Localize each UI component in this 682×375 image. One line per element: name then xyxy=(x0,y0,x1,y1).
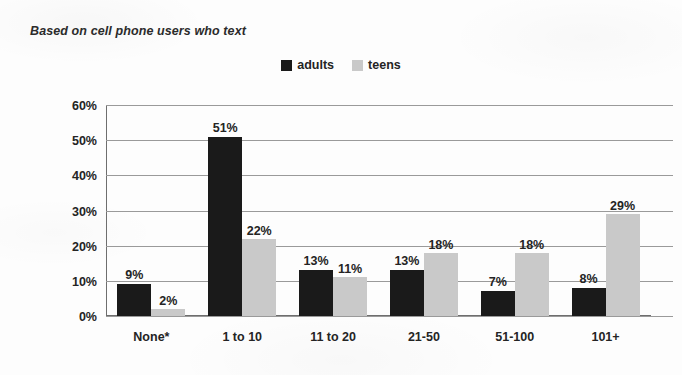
legend-swatch-adults-icon xyxy=(281,60,292,71)
y-axis-tick-label: 60% xyxy=(72,99,97,113)
bar-adults[interactable]: 9% xyxy=(117,284,151,316)
bar-adults[interactable]: 51% xyxy=(208,137,242,316)
x-axis-tick-label: 21-50 xyxy=(378,330,469,344)
bar-adults[interactable]: 8% xyxy=(572,288,606,316)
bars: 8%29% xyxy=(560,105,651,316)
chart-subtitle: Based on cell phone users who text xyxy=(30,24,246,38)
bar-value-label: 8% xyxy=(580,272,598,286)
bar-teens[interactable]: 18% xyxy=(515,253,549,316)
x-axis-tick-label: None* xyxy=(106,330,197,344)
bar-teens[interactable]: 18% xyxy=(424,253,458,316)
bars: 13%18% xyxy=(378,105,469,316)
y-axis-tick-label: 10% xyxy=(72,275,97,289)
bars: 7%18% xyxy=(469,105,560,316)
bar-adults[interactable]: 13% xyxy=(390,270,424,316)
bar-value-label: 13% xyxy=(394,254,419,268)
bars: 13%11% xyxy=(288,105,379,316)
bar-teens[interactable]: 2% xyxy=(151,309,185,316)
bar-group-none: 9%2%None* xyxy=(106,105,197,316)
bar-value-label: 18% xyxy=(428,238,453,252)
bar-adults[interactable]: 7% xyxy=(481,291,515,316)
bar-teens[interactable]: 29% xyxy=(606,214,640,316)
bar-value-label: 2% xyxy=(159,294,177,308)
bar-group-11-to-20: 13%11%11 to 20 xyxy=(288,105,379,316)
bar-value-label: 29% xyxy=(610,199,635,213)
plot-area: 0%10%20%30%40%50%60% 9%2%None*51%22%1 to… xyxy=(106,105,651,316)
y-axis-tick-label: 20% xyxy=(72,240,97,254)
bar-value-label: 7% xyxy=(489,275,507,289)
bar-group-51-100: 7%18%51-100 xyxy=(469,105,560,316)
bar-adults[interactable]: 13% xyxy=(299,270,333,316)
bar-groups: 9%2%None*51%22%1 to 1013%11%11 to 2013%1… xyxy=(106,105,651,316)
legend-item-adults[interactable]: adults xyxy=(281,58,334,72)
x-axis-tick-label: 51-100 xyxy=(469,330,560,344)
bar-group-101: 8%29%101+ xyxy=(560,105,651,316)
y-axis-tick-label: 40% xyxy=(72,169,97,183)
bar-teens[interactable]: 22% xyxy=(242,239,276,316)
bar-value-label: 18% xyxy=(519,238,544,252)
x-axis-tick-label: 1 to 10 xyxy=(197,330,288,344)
x-axis-tick-label: 11 to 20 xyxy=(288,330,379,344)
legend-label: adults xyxy=(297,58,334,72)
gridline-0: 0% xyxy=(106,316,673,317)
legend-swatch-teens-icon xyxy=(352,60,363,71)
bars: 51%22% xyxy=(197,105,288,316)
legend-label: teens xyxy=(368,58,401,72)
y-axis-tick-label: 30% xyxy=(72,205,97,219)
bar-value-label: 9% xyxy=(125,268,143,282)
bar-chart: Based on cell phone users who text adult… xyxy=(0,0,682,375)
bar-value-label: 11% xyxy=(338,262,362,276)
y-axis-tick-label: 0% xyxy=(79,310,97,324)
chart-legend: adultsteens xyxy=(0,58,682,72)
bar-teens[interactable]: 11% xyxy=(333,277,367,316)
x-axis-tick-label: 101+ xyxy=(560,330,651,344)
bar-value-label: 22% xyxy=(247,224,272,238)
legend-item-teens[interactable]: teens xyxy=(352,58,401,72)
y-axis-tick-label: 50% xyxy=(72,134,97,148)
bar-value-label: 13% xyxy=(304,254,329,268)
bar-group-1-to-10: 51%22%1 to 10 xyxy=(197,105,288,316)
bars: 9%2% xyxy=(106,105,197,316)
bar-group-21-50: 13%18%21-50 xyxy=(378,105,469,316)
bar-value-label: 51% xyxy=(213,121,238,135)
